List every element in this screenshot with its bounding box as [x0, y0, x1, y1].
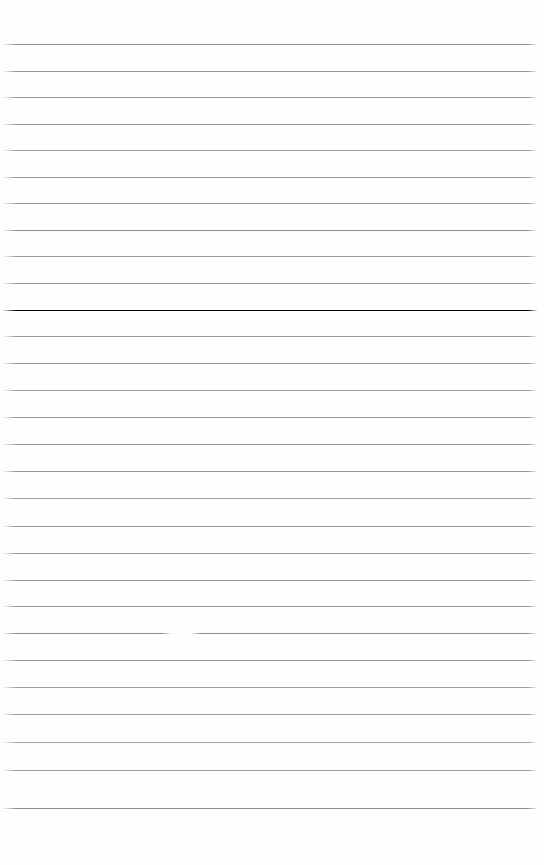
document-page — [0, 0, 544, 865]
page-surface — [0, 0, 544, 865]
